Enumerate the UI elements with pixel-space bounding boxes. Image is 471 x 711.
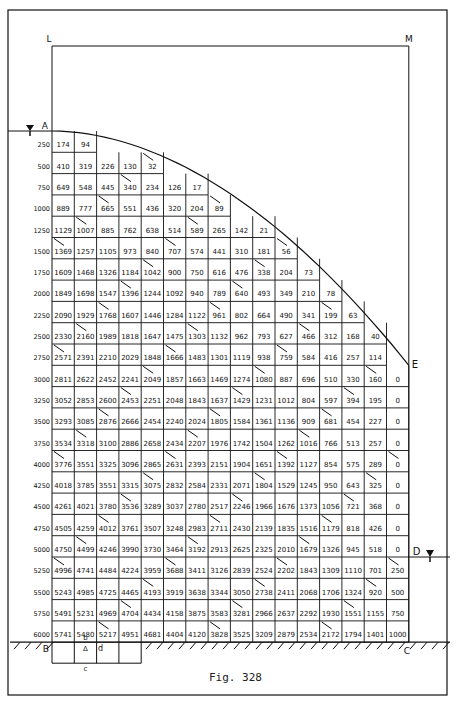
cell-value: 2865 (143, 461, 161, 469)
cell-value: 1012 (277, 397, 295, 405)
depth-label: 500 (38, 163, 50, 171)
cell-value: 1547 (99, 290, 117, 298)
cell-value: 3100 (99, 440, 117, 448)
flow-trace (232, 601, 242, 608)
cell-value: 3209 (255, 631, 273, 639)
cell-value: 1136 (277, 418, 295, 426)
cell-value: 1429 (233, 397, 251, 405)
cell-value: 4246 (99, 546, 117, 554)
flow-trace (299, 324, 309, 331)
cell-value: 476 (235, 269, 249, 277)
cell-value: 854 (324, 461, 338, 469)
cell-value: 513 (346, 440, 359, 448)
cell-value: 1637 (210, 397, 228, 405)
cell-value: 1284 (166, 312, 184, 320)
cell-value: 4725 (99, 589, 117, 597)
cell-value: 2622 (77, 376, 95, 384)
cell-value: 3551 (99, 482, 117, 490)
depth-label: 2500 (33, 333, 50, 341)
cell-value: 4969 (99, 610, 117, 618)
cell-value: 574 (190, 248, 204, 256)
cell-value: 5231 (77, 610, 95, 618)
cell-value: 2240 (166, 418, 184, 426)
cell-value: 3990 (121, 546, 139, 554)
cell-value: 1666 (166, 354, 184, 362)
cell-value: 1324 (344, 589, 362, 597)
cell-value: 627 (279, 333, 292, 341)
flow-trace (143, 473, 153, 480)
cell-value: 325 (369, 482, 382, 490)
cell-value: 3828 (210, 631, 228, 639)
cell-value: 4259 (77, 525, 95, 533)
flow-trace (188, 537, 198, 544)
cell-value: 130 (123, 163, 136, 171)
cell-value: 1929 (77, 312, 95, 320)
cell-value: 441 (213, 248, 226, 256)
cell-value: 1257 (77, 248, 95, 256)
cell-value: 0 (395, 440, 399, 448)
cell-value: 1742 (233, 440, 251, 448)
cell-value: 789 (213, 290, 226, 298)
cell-value: 4018 (54, 482, 72, 490)
cell-value: 89 (215, 205, 224, 213)
cell-value: 226 (101, 163, 115, 171)
cell-value: 4750 (54, 546, 72, 554)
depth-label: 3500 (33, 418, 50, 426)
flow-trace (277, 239, 287, 246)
point-label-E: E (412, 359, 418, 370)
cell-value: 490 (279, 312, 292, 320)
point-label-L: L (46, 34, 51, 44)
cell-value: 665 (101, 205, 114, 213)
cell-value: 3281 (233, 610, 251, 618)
cell-value: 3315 (121, 482, 139, 490)
cell-value: 2811 (54, 376, 72, 384)
cell-value: 1551 (344, 610, 362, 618)
flow-trace (299, 537, 309, 544)
cell-value: 2430 (233, 525, 251, 533)
cell-value: 802 (235, 312, 248, 320)
cell-value: 1080 (255, 376, 273, 384)
flow-trace (76, 217, 86, 224)
flow-trace (76, 324, 86, 331)
cell-value: 1184 (121, 269, 139, 277)
cell-value: 2534 (300, 631, 318, 639)
cell-value: 445 (101, 184, 114, 192)
cell-value: 2853 (77, 397, 95, 405)
cell-value: 1369 (54, 248, 72, 256)
ground-hatch (25, 642, 31, 649)
cell-value: 126 (168, 184, 182, 192)
depth-label: 1250 (33, 227, 50, 235)
ground-hatch (388, 642, 394, 649)
cell-value: 4996 (54, 567, 72, 575)
cell-value: 2251 (143, 397, 161, 405)
ground-hatch (300, 642, 306, 649)
cell-value: 2241 (121, 376, 139, 384)
cell-value: 0 (395, 376, 399, 384)
flow-trace (232, 281, 242, 288)
flow-trace (366, 366, 376, 373)
cell-value: 3126 (210, 567, 228, 575)
cell-value: 454 (346, 418, 360, 426)
cell-value: 4985 (77, 589, 95, 597)
cell-value: 2658 (143, 440, 161, 448)
cell-value: 3192 (188, 546, 206, 554)
cell-value: 3785 (77, 482, 95, 490)
cell-value: 265 (213, 227, 226, 235)
depth-label: 4250 (33, 482, 50, 490)
cell-value: 2584 (188, 482, 206, 490)
cell-value: 649 (56, 184, 69, 192)
cell-value: 436 (146, 205, 160, 213)
cell-value: 1835 (277, 525, 295, 533)
cell-value: 493 (257, 290, 270, 298)
cell-value: 1768 (99, 312, 117, 320)
cell-value: 3325 (99, 461, 117, 469)
flow-trace (188, 217, 198, 224)
cell-value: 4224 (121, 567, 139, 575)
cell-value: 1119 (233, 354, 251, 362)
cell-value: 551 (123, 205, 136, 213)
cell-value: 4681 (143, 631, 161, 639)
flow-trace (54, 452, 64, 459)
depth-label: 4000 (33, 461, 50, 469)
cell-value: 416 (324, 354, 338, 362)
cell-value: 1475 (166, 333, 184, 341)
